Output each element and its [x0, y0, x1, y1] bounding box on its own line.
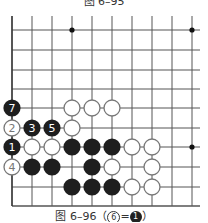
- svg-text:5: 5: [49, 122, 56, 135]
- white-stone: [64, 120, 80, 136]
- white-stone: [64, 100, 80, 116]
- black-stone: [103, 178, 120, 195]
- black-stone-1: 1: [3, 138, 20, 155]
- star-point-icon: [189, 144, 194, 149]
- white-stone: [24, 139, 40, 155]
- star-point-icon: [189, 27, 194, 32]
- go-board: 723514: [0, 0, 208, 210]
- white-stone: [104, 159, 120, 175]
- svg-text:2: 2: [9, 122, 16, 135]
- black-stone: [83, 178, 100, 195]
- white-stone-4: 4: [4, 159, 20, 175]
- svg-text:4: 4: [9, 161, 16, 174]
- white-stone: [44, 139, 60, 155]
- caption-equals: =: [120, 210, 129, 222]
- svg-text:1: 1: [9, 141, 16, 154]
- black-stone-5: 5: [43, 119, 60, 136]
- black-stone: [83, 158, 100, 175]
- white-stone-6-icon: 6: [107, 211, 120, 223]
- black-stone: [83, 138, 100, 155]
- black-stone: [43, 158, 60, 175]
- white-stone: [124, 179, 140, 195]
- black-stone: [23, 158, 40, 175]
- black-stone-1-icon: 1: [130, 211, 142, 222]
- white-stone: [104, 100, 120, 116]
- svg-text:7: 7: [9, 102, 16, 115]
- caption-suffix: ）: [142, 210, 153, 222]
- white-stone: [144, 139, 160, 155]
- white-stone: [144, 159, 160, 175]
- black-stone: [63, 178, 80, 195]
- black-stone: [63, 138, 80, 155]
- white-stone: [84, 100, 100, 116]
- star-point-icon: [69, 27, 74, 32]
- black-stone-3: 3: [23, 119, 40, 136]
- white-stone-2: 2: [4, 120, 20, 136]
- white-stone: [124, 139, 140, 155]
- figure-caption: 图 6–96（6=1）: [0, 207, 208, 222]
- svg-text:3: 3: [29, 122, 36, 135]
- black-stone: [103, 138, 120, 155]
- white-stone: [144, 179, 160, 195]
- black-stone-7: 7: [3, 99, 20, 116]
- caption-prefix: 图 6–96（: [55, 210, 107, 222]
